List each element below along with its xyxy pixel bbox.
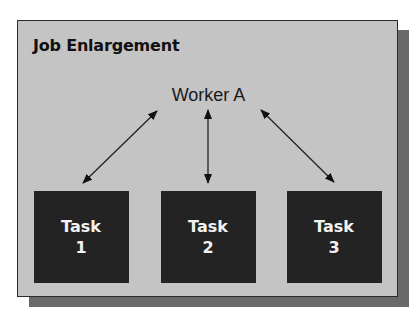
arrow-worker-task1 [83,111,157,183]
arrow-worker-task3 [261,110,334,182]
connection-arrows [0,0,416,314]
